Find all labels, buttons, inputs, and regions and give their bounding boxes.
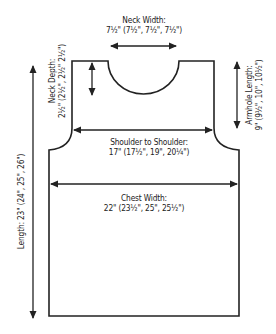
neck-depth-value: 2½" (2½", 2½" 2½")	[57, 37, 67, 125]
length-label: Length: 23" (24", 25", 26")	[16, 149, 27, 255]
neck-width-title: Neck Width:	[100, 15, 188, 25]
garment-outline	[49, 61, 239, 316]
chest-width-label: Chest Width: 22" (23½", 25", 25½")	[100, 193, 188, 213]
neck-width-label: Neck Width: 7½" (7½", 7½", 7½")	[100, 15, 188, 35]
shoulder-to-shoulder-label: Shoulder to Shoulder: 17" (17½", 19", 20…	[100, 137, 199, 157]
vest-schematic	[0, 0, 276, 334]
neck-width-value: 7½" (7½", 7½", 7½")	[100, 25, 188, 35]
length-text: Length: 23" (24", 25", 26")	[16, 149, 26, 255]
neck-depth-label: Neck Depth: 2½" (2½", 2½" 2½")	[47, 37, 69, 125]
chest-width-value: 22" (23½", 25", 25½")	[100, 203, 188, 213]
shoulder-to-shoulder-title: Shoulder to Shoulder:	[100, 137, 199, 147]
neck-depth-title: Neck Depth:	[47, 37, 57, 125]
chest-width-title: Chest Width:	[100, 193, 188, 203]
armhole-length-value: 9" (9½", 10", 10½")	[254, 51, 264, 139]
shoulder-to-shoulder-value: 17" (17½", 19", 20¼")	[100, 147, 199, 157]
armhole-length-label: Armhole Length: 9" (9½", 10", 10½")	[244, 51, 266, 139]
armhole-length-title: Armhole Length:	[244, 51, 254, 139]
